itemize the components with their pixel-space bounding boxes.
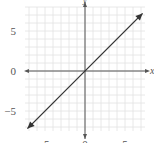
y-tick-label: 0 [11,65,17,77]
x-axis-arrow-left-icon [24,69,29,73]
x-tick-label: -5 [40,138,50,143]
coordinate-plane: x y 50−5-505 [0,0,154,143]
x-tick-label: 0 [82,138,88,143]
tick-labels: 50−5-505 [4,25,128,143]
y-tick-label: −5 [4,105,16,117]
x-tick-label: 5 [122,138,128,143]
x-axis-label: x [149,65,154,76]
y-tick-label: 5 [11,25,17,37]
y-axis-label: y [82,0,87,5]
